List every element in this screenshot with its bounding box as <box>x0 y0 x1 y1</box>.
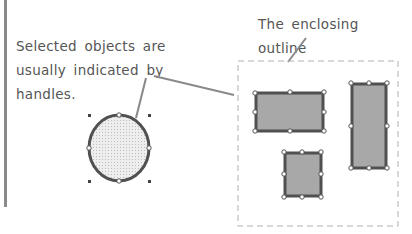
selection-diagram <box>0 0 412 234</box>
wide-rectangle-object[interactable] <box>256 93 323 131</box>
leader-line-circle <box>136 78 146 118</box>
tall-rectangle-object[interactable] <box>352 84 386 168</box>
leader-line-outline <box>288 38 306 62</box>
circle-object[interactable] <box>89 115 149 181</box>
small-square-object[interactable] <box>285 153 321 196</box>
leader-line-rects <box>154 76 234 95</box>
